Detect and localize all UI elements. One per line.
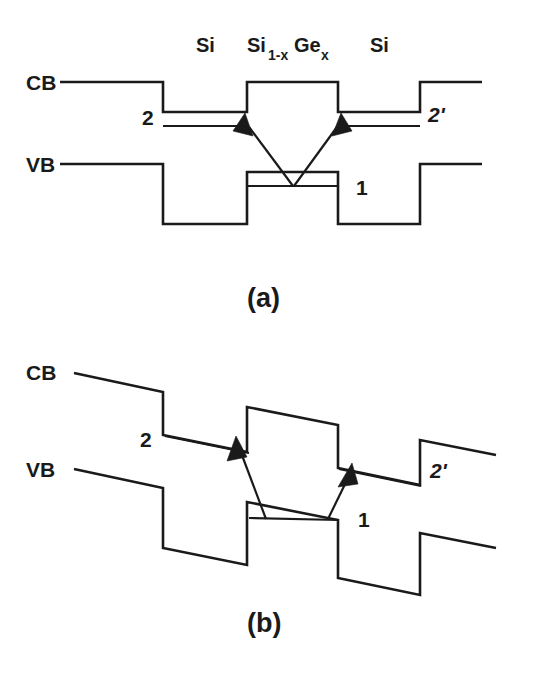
conduction-band-profile-a xyxy=(60,82,482,112)
material-label-middle: Si 1-x Ge x xyxy=(247,34,329,63)
panel-a: Si Si 1-x Ge x Si CB VB 2 2' 1 xyxy=(0,0,540,340)
panel-a-caption: (a) xyxy=(247,283,280,313)
electron-state-label-left-a: 2 xyxy=(142,106,154,129)
electron-state-label-left-b: 2 xyxy=(140,428,152,451)
material-label-right: Si xyxy=(370,34,389,56)
panel-b-caption: (b) xyxy=(247,608,281,638)
material-label-middle-sub1: 1-x xyxy=(268,47,288,63)
transition-arrow-left-a xyxy=(233,113,293,186)
transition-arrow-right-a xyxy=(294,113,352,186)
material-label-left: Si xyxy=(196,34,215,56)
vb-label-b: VB xyxy=(26,458,55,481)
material-label-middle-sub2: x xyxy=(321,47,329,63)
cb-label-a: CB xyxy=(26,71,56,94)
hole-state-label-a: 1 xyxy=(356,176,368,199)
valence-band-profile-a xyxy=(60,164,482,224)
material-label-middle-ge: Ge xyxy=(294,34,321,56)
cb-label-b: CB xyxy=(26,361,56,384)
panel-b: CB VB 2 2' 1 (b) xyxy=(0,340,540,679)
transition-arrow-right-b xyxy=(328,463,358,519)
valence-band-profile-b xyxy=(74,469,496,595)
electron-state-label-right-a: 2' xyxy=(427,103,446,126)
vb-label-a: VB xyxy=(26,153,55,176)
hole-state-label-b: 1 xyxy=(358,508,370,531)
electron-state-label-right-b: 2' xyxy=(429,459,448,482)
material-label-middle-si: Si xyxy=(247,34,266,56)
